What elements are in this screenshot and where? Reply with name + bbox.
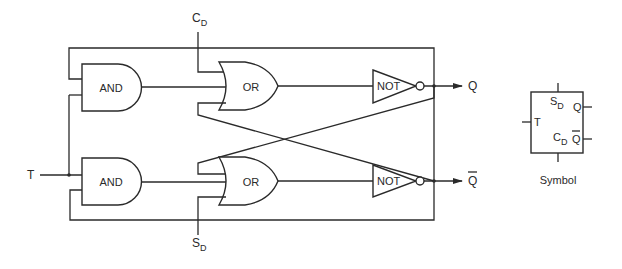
or-gate-bottom: OR (219, 157, 278, 205)
not-gate-bottom: NOT (373, 165, 424, 197)
not-gate-top-label: NOT (377, 80, 401, 92)
and-gate-bottom: AND (82, 158, 142, 205)
t-input-label: T (27, 168, 35, 182)
or-gate-bottom-label: OR (243, 176, 260, 188)
circuit-diagram: AND OR NOT Q CD T AND OR S (0, 0, 622, 269)
and-gate-top: AND (82, 64, 141, 111)
or-gate-top-label: OR (243, 81, 260, 93)
and-gate-top-label: AND (99, 82, 122, 94)
q-output-label: Q (468, 79, 477, 93)
flipflop-symbol: SD Q T Q CD Symbol (522, 83, 592, 186)
sd-label: SD (192, 236, 207, 253)
or-gate-top: OR (219, 62, 278, 110)
symbol-t-label: T (534, 116, 541, 128)
symbol-qbar-label: Q (572, 133, 581, 145)
not-gate-bottom-label: NOT (377, 175, 401, 187)
symbol-q-label: Q (573, 101, 582, 113)
symbol-caption: Symbol (540, 174, 577, 186)
qbar-junction-dot (432, 179, 436, 183)
not-gate-top: NOT (373, 70, 424, 103)
t-junction-dot (67, 173, 71, 177)
and-gate-bottom-label: AND (99, 176, 122, 188)
cd-label: CD (192, 11, 208, 28)
qbar-output-label: Q (468, 174, 477, 188)
